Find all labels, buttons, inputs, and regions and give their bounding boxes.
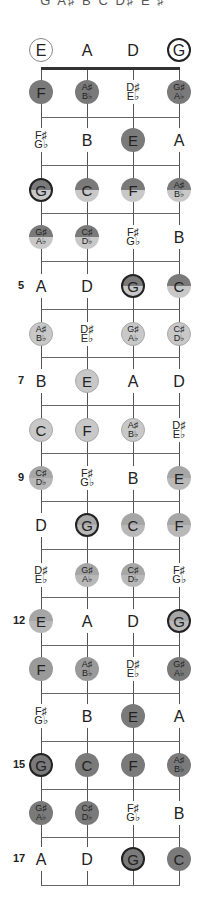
fret-line — [41, 453, 180, 454]
note-enharmonic: E♭ — [35, 575, 47, 584]
note-name: C — [174, 279, 185, 294]
fret-line — [41, 597, 180, 598]
note-name: C — [36, 423, 47, 438]
note-marker: C — [121, 513, 145, 537]
note-marker: A♯B♭ — [29, 322, 53, 346]
note-marker: C — [75, 753, 99, 777]
note-name: F — [36, 662, 45, 677]
open-string-d: D — [121, 38, 145, 62]
note-marker: F♯G♭ — [29, 704, 53, 728]
note-marker: A — [167, 704, 191, 728]
fret-line — [41, 405, 180, 406]
note-marker: G — [121, 847, 145, 871]
note-marker: F — [75, 418, 99, 442]
note-enharmonic: G♭ — [172, 575, 186, 584]
note-enharmonic: G♭ — [34, 716, 48, 725]
note-marker: C♯D♭ — [75, 225, 99, 249]
note-enharmonic: E♭ — [81, 334, 93, 343]
note-name: E — [128, 133, 138, 148]
note-name: F — [36, 85, 45, 100]
note-marker: F — [29, 80, 53, 104]
note-enharmonic: A♭ — [36, 813, 46, 822]
note-marker: B — [121, 466, 145, 490]
fret-line — [41, 741, 180, 742]
note-enharmonic: A♭ — [36, 237, 46, 246]
note-name: D — [81, 852, 93, 867]
note-marker: F♯G♭ — [167, 563, 191, 587]
note-name: G — [127, 279, 139, 294]
fret-line — [41, 501, 180, 502]
note-name: C — [174, 852, 185, 867]
note-name: G — [81, 518, 93, 533]
note-marker: F — [121, 753, 145, 777]
fret-number: 12 — [13, 614, 27, 626]
note-marker: A — [29, 274, 53, 298]
note-marker: D♯E♭ — [121, 657, 145, 681]
note-name: D — [81, 279, 93, 294]
note-marker: E — [29, 609, 53, 633]
fret-line — [41, 165, 180, 166]
note-marker: G♯A♭ — [75, 563, 99, 587]
note-enharmonic: B♭ — [174, 765, 184, 774]
note-marker: B — [167, 225, 191, 249]
note-marker: F♯G♭ — [121, 801, 145, 825]
note-marker: E — [167, 466, 191, 490]
note-name: D — [35, 518, 47, 533]
note-marker: D — [29, 513, 53, 537]
note-marker: F♯G♭ — [29, 128, 53, 152]
note-marker: A♯B♭ — [167, 753, 191, 777]
note-name: A — [82, 614, 93, 629]
note-marker: D — [167, 369, 191, 393]
note-marker: D♯E♭ — [121, 80, 145, 104]
note-enharmonic: E♭ — [173, 430, 185, 439]
fret-line — [41, 213, 180, 214]
note-name: F — [82, 423, 91, 438]
note-marker: A — [75, 609, 99, 633]
note-marker: C — [167, 847, 191, 871]
note-name: E — [36, 614, 46, 629]
note-name: B — [36, 374, 47, 389]
note-marker: D♯E♭ — [75, 322, 99, 346]
note-enharmonic: D♭ — [82, 813, 93, 822]
fret-line — [41, 789, 180, 790]
note-enharmonic: E♭ — [127, 669, 139, 678]
note-marker: F — [29, 657, 53, 681]
note-enharmonic: A♭ — [174, 669, 184, 678]
note-name: E — [174, 471, 184, 486]
note-enharmonic: B♭ — [174, 190, 184, 199]
note-enharmonic: D♭ — [36, 478, 47, 487]
note-marker: F — [121, 178, 145, 202]
note-name: G — [127, 852, 139, 867]
note-enharmonic: E♭ — [127, 92, 139, 101]
note-marker: E — [75, 369, 99, 393]
note-name: B — [82, 709, 93, 724]
note-enharmonic: B♭ — [36, 334, 46, 343]
note-enharmonic: D♭ — [174, 334, 185, 343]
note-marker: B — [29, 369, 53, 393]
note-marker: D — [75, 847, 99, 871]
note-marker: D♯E♭ — [167, 418, 191, 442]
note-name: A — [174, 709, 185, 724]
note-enharmonic: G♭ — [126, 813, 140, 822]
note-name: G — [173, 43, 185, 58]
note-marker: A♯B♭ — [75, 80, 99, 104]
note-marker: D — [121, 609, 145, 633]
note-marker: C — [75, 178, 99, 202]
note-enharmonic: B♭ — [82, 92, 92, 101]
note-name: A — [82, 43, 93, 58]
note-marker: G♯A♭ — [167, 80, 191, 104]
note-name: E — [36, 43, 47, 58]
note-marker: B — [167, 801, 191, 825]
note-enharmonic: B♭ — [82, 669, 92, 678]
note-marker: C♯D♭ — [75, 801, 99, 825]
fret-line — [41, 645, 180, 646]
fretboard-diagram: EADGFA♯B♭D♯E♭G♯A♭F♯G♭BEAGCFA♯B♭G♯A♭C♯D♭F… — [0, 0, 206, 901]
note-marker: C♯D♭ — [29, 466, 53, 490]
note-marker: F♯G♭ — [75, 466, 99, 490]
note-marker: C — [29, 418, 53, 442]
note-enharmonic: G♭ — [80, 478, 94, 487]
fret-line — [41, 885, 180, 886]
fret-line — [41, 837, 180, 838]
note-marker: G — [29, 753, 53, 777]
note-marker: A — [29, 847, 53, 871]
